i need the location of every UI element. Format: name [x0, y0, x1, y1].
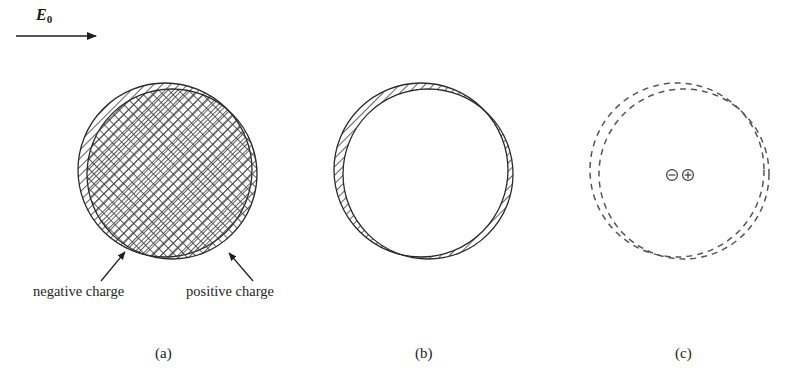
positive-cloud-hatch-a	[60, 60, 290, 300]
panel-b-group	[320, 60, 540, 300]
field-subscript: 0	[47, 13, 53, 25]
polarization-diagram	[0, 0, 812, 380]
caption-a: (a)	[155, 345, 172, 362]
dipole-positive-icon	[683, 170, 694, 181]
negative-cloud-outline-c	[590, 83, 764, 257]
dipole-negative-icon	[667, 170, 678, 181]
positive-charge-leader	[229, 253, 253, 281]
field-symbol: E	[36, 6, 47, 23]
negative-charge-label: negative charge	[33, 283, 124, 300]
panel-a-group	[60, 60, 290, 300]
panel-c-group	[590, 83, 769, 259]
negative-charge-leader	[101, 252, 125, 281]
figure-canvas: E0 negative charge positive charge (a) (…	[0, 0, 812, 380]
field-strength-label: E0	[36, 6, 52, 25]
positive-charge-label: positive charge	[186, 283, 274, 300]
caption-b: (b)	[415, 345, 433, 362]
caption-c: (c)	[675, 345, 692, 362]
